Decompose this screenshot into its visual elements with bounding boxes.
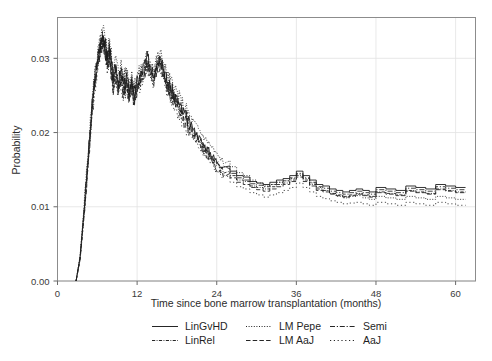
legend-label: LM Pepe [279, 320, 321, 332]
y-axis-label: Probability [10, 125, 22, 175]
x-tick-label: 0 [55, 288, 60, 299]
y-tick-label: 0.00 [31, 276, 50, 287]
y-tick-label: 0.01 [31, 201, 50, 212]
x-tick-label: 12 [132, 288, 143, 299]
legend-label: Semi [363, 320, 387, 332]
legend-label: LM AaJ [279, 334, 314, 346]
legend-label: AaJ [363, 334, 381, 346]
x-tick-label: 60 [450, 288, 461, 299]
legend-label: LinRel [185, 334, 215, 346]
y-tick-label: 0.02 [31, 127, 50, 138]
chart-canvas: 01224364860 0.000.010.020.03 Time since … [0, 0, 492, 361]
x-axis-label: Time since bone marrow transplantation (… [151, 297, 382, 309]
figure-container: 01224364860 0.000.010.020.03 Time since … [0, 0, 492, 361]
legend-label: LinGvHD [185, 320, 228, 332]
y-tick-label: 0.03 [31, 53, 50, 64]
